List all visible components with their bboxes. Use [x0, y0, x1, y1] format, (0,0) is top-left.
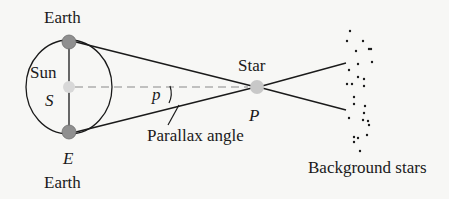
- parallax-diagram: Earth Sun S E Earth Star P p Parallax an…: [0, 0, 449, 199]
- background-stars-icon: [346, 30, 373, 152]
- sun-label: Sun: [30, 64, 56, 81]
- sightline-extension-bottom: [262, 88, 346, 110]
- angle-arc: [169, 86, 171, 103]
- sun-symbol: S: [45, 92, 54, 109]
- earth-symbol: E: [63, 150, 73, 167]
- sightline-top: [76, 42, 252, 86]
- angle-symbol: p: [152, 86, 161, 103]
- sightline-extension-top: [262, 63, 346, 86]
- star-label: Star: [238, 57, 265, 74]
- earth-bottom-label: Earth: [44, 174, 81, 191]
- star-icon: [250, 80, 264, 94]
- parallax-angle-label: Parallax angle: [147, 127, 244, 144]
- sun-icon: [63, 81, 75, 93]
- earth-top-icon: [62, 35, 76, 49]
- star-symbol: P: [249, 107, 259, 124]
- background-stars-label: Background stars: [308, 159, 427, 176]
- earth-top-label: Earth: [44, 9, 81, 26]
- earth-bottom-icon: [62, 125, 76, 139]
